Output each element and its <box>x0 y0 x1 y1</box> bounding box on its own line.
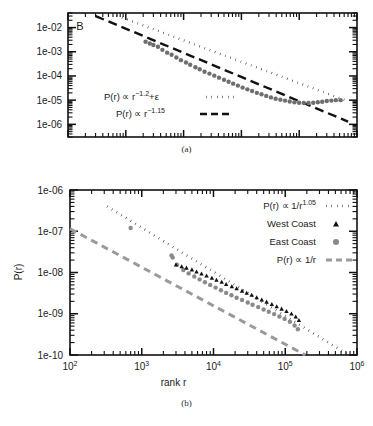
panel-a-data-series-marker <box>179 58 183 62</box>
panel-b-west-coast-series <box>174 262 301 322</box>
panel-b-east-coast-series-marker <box>240 298 244 302</box>
panel-b-xtick-label: 102 <box>62 360 77 372</box>
panel-b-east-coast-series-marker <box>229 293 233 297</box>
panel-b-east-coast-series-marker <box>224 291 228 295</box>
panel-a-data-series-marker <box>212 73 216 77</box>
panel-b-west-coast-series-marker <box>184 266 188 270</box>
panel-a-data-series-marker <box>292 100 296 104</box>
panel-b-ytick-label: 1e-07 <box>37 226 63 237</box>
panel-b-west-coast-series-marker <box>194 269 198 273</box>
panel-a-data-series-marker <box>236 83 240 87</box>
panel-b-west-coast-series-marker <box>297 318 301 322</box>
panel-a-data-series-marker <box>143 40 147 44</box>
panel-a-data-series-marker <box>338 98 342 102</box>
panel-b-legend-label-0: P(r) ∝ 1/r1.05 <box>263 199 316 211</box>
panel-a-caption: (a) <box>0 144 373 154</box>
panel-a-data-series-marker <box>259 92 263 96</box>
panel-a-fit-dashed <box>96 16 348 122</box>
panel-b-xtick-label: 106 <box>349 360 364 372</box>
panel-a-data-series-marker <box>283 98 287 102</box>
panel-b-x-axis-title: rank r <box>161 377 187 388</box>
panel-a-data-series-marker <box>278 97 282 101</box>
panel-a-data-series-marker <box>255 91 259 95</box>
panel-b-west-coast-series-marker <box>199 271 203 275</box>
panel-a-data-series-marker <box>320 100 324 104</box>
panel-b-east-coast-series-marker <box>203 280 207 284</box>
panel-b-legend-swatch-triangle <box>333 221 339 227</box>
panel-a-data-series-marker <box>240 85 244 89</box>
panel-b-west-coast-series-marker <box>294 314 298 318</box>
panel-a-data-series-marker <box>288 99 292 103</box>
panel-a-data-series-marker <box>174 55 178 59</box>
panel-b-east-coast-series-marker <box>282 317 286 321</box>
panel-b-west-coast-series-marker <box>254 295 258 299</box>
panel-a-data-series-marker <box>302 101 306 105</box>
panel-b-east-coast-series-marker <box>197 277 201 281</box>
panel-b-legend-label-1: West Coast <box>267 218 316 229</box>
panel-b-west-coast-series-marker <box>179 264 183 268</box>
panel-a: 1e-021e-031e-041e-051e-06BP(r) ∝ r−1.2+ε… <box>36 13 357 137</box>
panel-b-east-coast-series-marker <box>208 283 212 287</box>
panel-a-data-series-marker <box>202 69 206 73</box>
panel-a-data-series-marker <box>222 78 226 82</box>
panel-b-east-coast-series-marker <box>219 288 223 292</box>
panel-a-ytick-label: 1e-06 <box>36 119 62 130</box>
panel-a-data-series-marker <box>160 48 164 52</box>
panel-a-data-series-marker <box>334 98 338 102</box>
panel-b-east-coast-series-marker <box>292 323 296 327</box>
panel-a-data-series-marker <box>297 101 301 105</box>
panel-a-data-series-marker <box>273 96 277 100</box>
panel-b-west-coast-series-marker <box>274 304 278 308</box>
panel-b-east-coast-series-marker <box>213 285 217 289</box>
panel-b-ytick-label: 1e-06 <box>37 185 63 196</box>
panel-b-west-coast-series-marker <box>224 282 228 286</box>
panel-b-west-coast-series-marker <box>260 297 264 301</box>
figure-container: 1e-021e-031e-041e-051e-06BP(r) ∝ r−1.2+ε… <box>0 0 373 426</box>
panel-b-east-coast-series-marker <box>272 312 276 316</box>
panel-a-legend-label-1: P(r) ∝ r−1.15 <box>116 107 165 119</box>
panel-b-west-coast-series-marker <box>190 267 194 271</box>
panel-b-east-coast-series-marker <box>288 320 292 324</box>
panel-b: 1e-061e-071e-081e-091e-10102103104105106… <box>13 185 365 389</box>
panel-a-ytick-label: 1e-03 <box>36 46 62 57</box>
panel-a-data-series-marker <box>151 43 155 47</box>
panel-b-ytick-label: 1e-08 <box>37 267 63 278</box>
panel-b-west-coast-series-marker <box>279 307 283 311</box>
panel-b-east-coast-series-marker <box>128 226 132 230</box>
panel-a-data-series-marker <box>184 60 188 64</box>
panel-b-legend-label-2: East Coast <box>270 236 317 247</box>
panel-a-data-series-marker <box>316 100 320 104</box>
panel-b-ytick-label: 1e-10 <box>37 350 63 361</box>
panel-b-east-coast-series-marker <box>261 307 265 311</box>
panel-a-data-series-marker <box>226 79 230 83</box>
panel-b-west-coast-series-marker <box>210 276 214 280</box>
panel-a-data-series-marker <box>188 63 192 67</box>
panel-a-data-series-marker <box>311 101 315 105</box>
panel-b-xtick-label: 103 <box>134 360 149 372</box>
panel-a-data-series-marker <box>264 94 268 98</box>
panel-a-ytick-label: 1e-04 <box>36 70 62 81</box>
panel-b-legend-swatch-circle <box>333 239 339 245</box>
panel-a-ytick-label: 1e-05 <box>36 95 62 106</box>
panel-a-data-series-marker <box>250 89 254 93</box>
panel-b-frame <box>70 190 357 355</box>
panel-b-east-coast-series-marker <box>246 300 250 304</box>
panel-b-east-coast-series-marker <box>296 327 300 331</box>
panel-b-west-coast-series-marker <box>270 302 274 306</box>
panel-a-data-series-marker <box>193 65 197 69</box>
panel-b-east-coast-series-marker <box>186 271 190 275</box>
panel-a-data-series-marker <box>306 101 310 105</box>
panel-b-east-coast-series-marker <box>234 295 238 299</box>
panel-a-data-series-marker <box>198 67 202 71</box>
panel-b-west-coast-series-marker <box>264 300 268 304</box>
panel-a-data-series-marker <box>169 53 173 57</box>
panel-a-letter: B <box>76 20 83 32</box>
panel-b-east-coast-series-marker <box>192 274 196 278</box>
panel-b-east-coast-series-marker <box>171 255 175 259</box>
panel-b-west-coast-series-marker <box>219 280 223 284</box>
panel-a-data-series-marker <box>329 98 333 102</box>
panel-a-data-series-marker <box>325 99 329 103</box>
figure-svg: 1e-021e-031e-041e-051e-06BP(r) ∝ r−1.2+ε… <box>0 0 373 426</box>
panel-b-west-coast-series-marker <box>204 273 208 277</box>
panel-b-xtick-label: 104 <box>206 360 221 372</box>
